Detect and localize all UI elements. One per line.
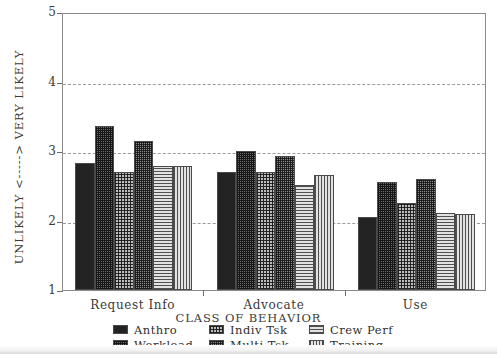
bar-advocate-crew-perf <box>295 185 315 290</box>
legend-swatch-crew-perf <box>309 325 324 334</box>
x-tick-mark-1 <box>203 290 204 296</box>
legend-label-anthro: Anthro <box>134 323 177 337</box>
bar-request-info-indiv-tsk <box>114 172 134 290</box>
bar-advocate-indiv-tsk <box>256 172 276 290</box>
bar-use-multi-tsk <box>416 179 436 290</box>
legend-swatch-indiv-tsk <box>209 325 224 334</box>
bar-request-info-workload <box>95 126 115 290</box>
bar-request-info-anthro <box>75 163 95 290</box>
bar-use-indiv-tsk <box>397 203 417 290</box>
bar-advocate-training <box>314 175 334 290</box>
legend-label-indiv-tsk: Indiv Tsk <box>230 323 287 337</box>
legend-item-indiv-tsk: Indiv Tsk <box>209 322 309 337</box>
scan-edge-artifact <box>0 345 497 354</box>
y-tick-label-4: 4 <box>16 75 56 89</box>
x-tick-mark-2 <box>345 290 346 296</box>
bar-use-workload <box>377 182 397 290</box>
bar-request-info-training <box>173 166 193 290</box>
bar-request-info-multi-tsk <box>134 141 154 290</box>
y-tick-label-2: 2 <box>16 214 56 228</box>
x-category-label-use: Use <box>345 298 486 312</box>
y-tick-label-1: 1 <box>16 283 56 297</box>
bar-use-crew-perf <box>436 213 456 290</box>
bar-advocate-workload <box>236 151 256 290</box>
plot-area <box>62 13 486 291</box>
gridline-y-3 <box>63 153 485 154</box>
x-category-label-advocate: Advocate <box>203 298 344 312</box>
bar-request-info-crew-perf <box>153 166 173 290</box>
bar-advocate-multi-tsk <box>275 156 295 290</box>
legend-swatch-anthro <box>113 325 128 334</box>
legend-label-crew-perf: Crew Perf <box>330 323 393 337</box>
bar-advocate-anthro <box>217 172 237 290</box>
y-tick-label-3: 3 <box>16 144 56 158</box>
x-category-label-request-info: Request Info <box>62 298 203 312</box>
legend-item-anthro: Anthro <box>113 322 209 337</box>
legend-item-crew-perf: Crew Perf <box>309 322 401 337</box>
y-tick-label-5: 5 <box>16 5 56 19</box>
chart-figure: UNLIKELY <-----> VERY LIKELY 12345 Reque… <box>0 0 497 354</box>
bar-use-training <box>455 214 475 290</box>
y-tick-mark-1 <box>57 291 63 292</box>
bar-use-anthro <box>358 217 378 290</box>
gridline-y-4 <box>63 84 485 85</box>
